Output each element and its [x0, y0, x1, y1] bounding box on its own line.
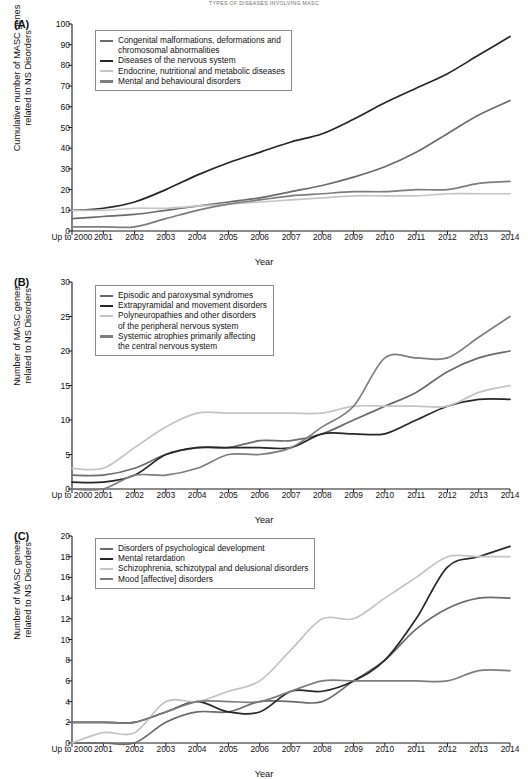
x-tick-label: 2002 [125, 233, 144, 243]
x-tick-label: 2009 [344, 233, 363, 243]
x-tick-label: Up to 2000 [52, 491, 93, 501]
x-tick-label: Up to 2000 [52, 745, 93, 755]
legend-line-icon [100, 335, 113, 337]
legend-line-icon [100, 558, 113, 560]
x-tick-label: 2011 [407, 233, 425, 243]
x-tick-label: 2008 [313, 745, 332, 755]
x-tick-label: 2002 [125, 745, 144, 755]
legend-line-icon [100, 568, 113, 570]
legend-row: Schizophrenia, schizotypal and delusiona… [100, 563, 308, 573]
x-tick-label: 2004 [188, 491, 207, 501]
x-tick-label: 2013 [469, 491, 488, 501]
legend-label: Polyneuropathies and other disorders of … [118, 310, 256, 330]
x-tick-label: 2012 [438, 745, 457, 755]
x-tick-label: 2006 [250, 745, 269, 755]
x-tick-label: 2007 [282, 491, 301, 501]
series-line-3 [72, 670, 510, 723]
x-tick-label: 2009 [344, 745, 363, 755]
legend-row: Mental retardation [100, 553, 308, 563]
panel-c: (C) Number of MASC genes related to NS D… [0, 522, 528, 777]
x-tick-label: 2003 [157, 233, 176, 243]
panel-b-legend: Episodic and paroxysmal syndromesExtrapy… [95, 285, 274, 356]
series-line-3 [72, 181, 510, 227]
panel-a-xlabel: Year [0, 257, 528, 267]
legend-line-icon [100, 295, 113, 297]
legend-line-icon [100, 40, 113, 42]
panel-c-xlabel: Year [0, 769, 528, 779]
x-tick-label: 2004 [188, 233, 207, 243]
legend-row: Endocrine, nutritional and metabolic dis… [100, 66, 285, 76]
legend-row: Mental and behavioural disorders [100, 76, 285, 86]
x-tick-label: 2011 [407, 491, 425, 501]
x-tick-label: 2003 [157, 491, 176, 501]
panel-b-xtick-row: Up to 2000200120022003200420052006200720… [72, 491, 510, 515]
x-tick-label: 2008 [313, 491, 332, 501]
running-head: Types of Diseases Involving MASC [0, 0, 528, 7]
x-tick-label: 2001 [94, 491, 113, 501]
panel-b: (B) Number of MASC genes related to NS D… [0, 268, 528, 523]
legend-row: Episodic and paroxysmal syndromes [100, 290, 267, 300]
x-tick-label: 2003 [157, 745, 176, 755]
panel-a-legend: Congenital malformations, deformations a… [95, 30, 292, 91]
x-tick-label: 2002 [125, 491, 144, 501]
x-tick-label: 2009 [344, 491, 363, 501]
x-tick-label: 2014 [501, 745, 520, 755]
legend-line-icon [100, 60, 113, 62]
panel-a-ylabel: Cumulative number of MASC genes related … [12, 0, 34, 163]
legend-row: Diseases of the nervous system [100, 55, 285, 65]
legend-row: Mood [affective] disorders [100, 574, 308, 584]
series-line-2 [72, 386, 510, 470]
panel-c-xtick-row: Up to 2000200120022003200420052006200720… [72, 745, 510, 769]
x-tick-label: 2001 [94, 745, 113, 755]
panel-a: (A) Cumulative number of MASC genes rela… [0, 10, 528, 265]
panel-c-legend: Disorders of psychological developmentMe… [95, 538, 315, 589]
panel-c-ylabel: Number of MASC genes related to NS Disor… [12, 505, 34, 675]
x-tick-label: 2013 [469, 745, 488, 755]
x-tick-label: 2012 [438, 491, 457, 501]
x-tick-label: 2010 [376, 745, 395, 755]
legend-row: Systemic atrophies primarily affecting t… [100, 331, 267, 351]
legend-label: Extrapyramidal and movement disorders [118, 300, 267, 310]
panel-a-xtick-row: Up to 2000200120022003200420052006200720… [72, 233, 510, 257]
legend-row: Disorders of psychological development [100, 543, 308, 553]
legend-label: Congenital malformations, deformations a… [118, 35, 281, 55]
legend-label: Mental retardation [118, 553, 185, 563]
legend-row: Extrapyramidal and movement disorders [100, 300, 267, 310]
legend-label: Diseases of the nervous system [118, 55, 236, 65]
x-tick-label: 2014 [501, 491, 520, 501]
x-tick-label: 2005 [219, 491, 238, 501]
legend-label: Disorders of psychological development [118, 543, 265, 553]
legend-label: Episodic and paroxysmal syndromes [118, 290, 253, 300]
x-tick-label: 2007 [282, 233, 301, 243]
legend-row: Polyneuropathies and other disorders of … [100, 310, 267, 330]
y-tick-label: 100 [56, 19, 70, 29]
x-tick-label: 2004 [188, 745, 207, 755]
x-tick-label: 2010 [376, 491, 395, 501]
legend-line-icon [100, 315, 113, 317]
legend-line-icon [100, 80, 113, 82]
legend-line-icon [100, 305, 113, 307]
x-tick-label: 2006 [250, 233, 269, 243]
x-tick-label: 2014 [501, 233, 520, 243]
x-tick-label: 2005 [219, 745, 238, 755]
panel-b-ytick-column: 051015202530 [44, 282, 70, 489]
panel-c-ytick-column: 02468101214161820 [44, 536, 70, 743]
x-tick-label: 2005 [219, 233, 238, 243]
panel-b-ylabel: Number of MASC genes related to NS Disor… [12, 251, 34, 421]
legend-label: Endocrine, nutritional and metabolic dis… [118, 66, 285, 76]
legend-line-icon [100, 70, 113, 72]
x-tick-label: 2010 [376, 233, 395, 243]
panel-a-ytick-column: 0102030405060708090100 [44, 24, 70, 231]
legend-label: Mental and behavioural disorders [118, 76, 241, 86]
x-tick-label: 2008 [313, 233, 332, 243]
x-tick-label: 2007 [282, 745, 301, 755]
x-tick-label: 2013 [469, 233, 488, 243]
x-tick-label: 2006 [250, 491, 269, 501]
legend-label: Mood [affective] disorders [118, 574, 213, 584]
legend-line-icon [100, 548, 113, 550]
legend-label: Systemic atrophies primarily affecting t… [118, 331, 255, 351]
legend-line-icon [100, 578, 113, 580]
legend-row: Congenital malformations, deformations a… [100, 35, 285, 55]
x-tick-label: 2011 [407, 745, 425, 755]
x-tick-label: 2012 [438, 233, 457, 243]
